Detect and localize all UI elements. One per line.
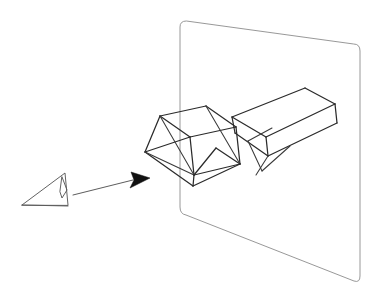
box-right-edge [232,88,305,117]
eye-viewpoint [22,173,68,206]
figure-canvas [0,0,384,303]
box-left-edge [206,106,240,164]
view-direction-arrow [73,172,150,195]
box-left-edge [160,116,190,137]
box-left-edge [145,152,194,175]
box-right-edge [256,156,268,175]
box-right-edge [235,133,268,156]
box-left-edge [145,152,193,186]
box-right-edge [268,123,337,156]
box-right-edge [248,141,262,171]
view-ray-line [73,180,133,195]
box-left-edge [193,175,194,186]
box-left-edge [190,127,236,137]
box-right-edge [248,128,272,141]
box-left-edge [145,116,160,152]
box-right-edge [335,104,337,123]
box-left-edge [160,106,206,116]
diagram-svg [0,0,384,303]
box-right-edge [305,88,335,104]
box-left-edge [206,106,236,127]
wireframe-box-left [145,106,240,186]
box-left-edge [145,137,190,152]
box-right-edge [266,137,268,156]
box-left-edge [216,148,240,164]
wireframe-box-right [232,88,337,175]
box-right-edge [266,104,335,137]
image-plane [180,21,360,281]
eye-outline [22,173,68,205]
